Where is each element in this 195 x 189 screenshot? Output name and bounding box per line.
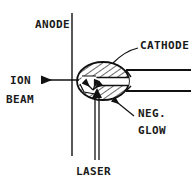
ion-beam-source-diagram: ANODE ION BEAM	[0, 0, 195, 189]
diagram-canvas: ANODE ION BEAM	[0, 0, 195, 189]
cathode-label: CATHODE	[140, 39, 189, 52]
anode-label: ANODE	[35, 18, 70, 31]
ion-label: ION	[10, 74, 31, 87]
neg-label: NEG.	[138, 107, 166, 120]
glow-label: GLOW	[138, 124, 166, 137]
laser-label: LASER	[76, 165, 111, 178]
neg-glow-leader-line	[113, 99, 134, 116]
beam-label: BEAM	[6, 93, 34, 106]
cathode-leader-line	[113, 48, 138, 63]
